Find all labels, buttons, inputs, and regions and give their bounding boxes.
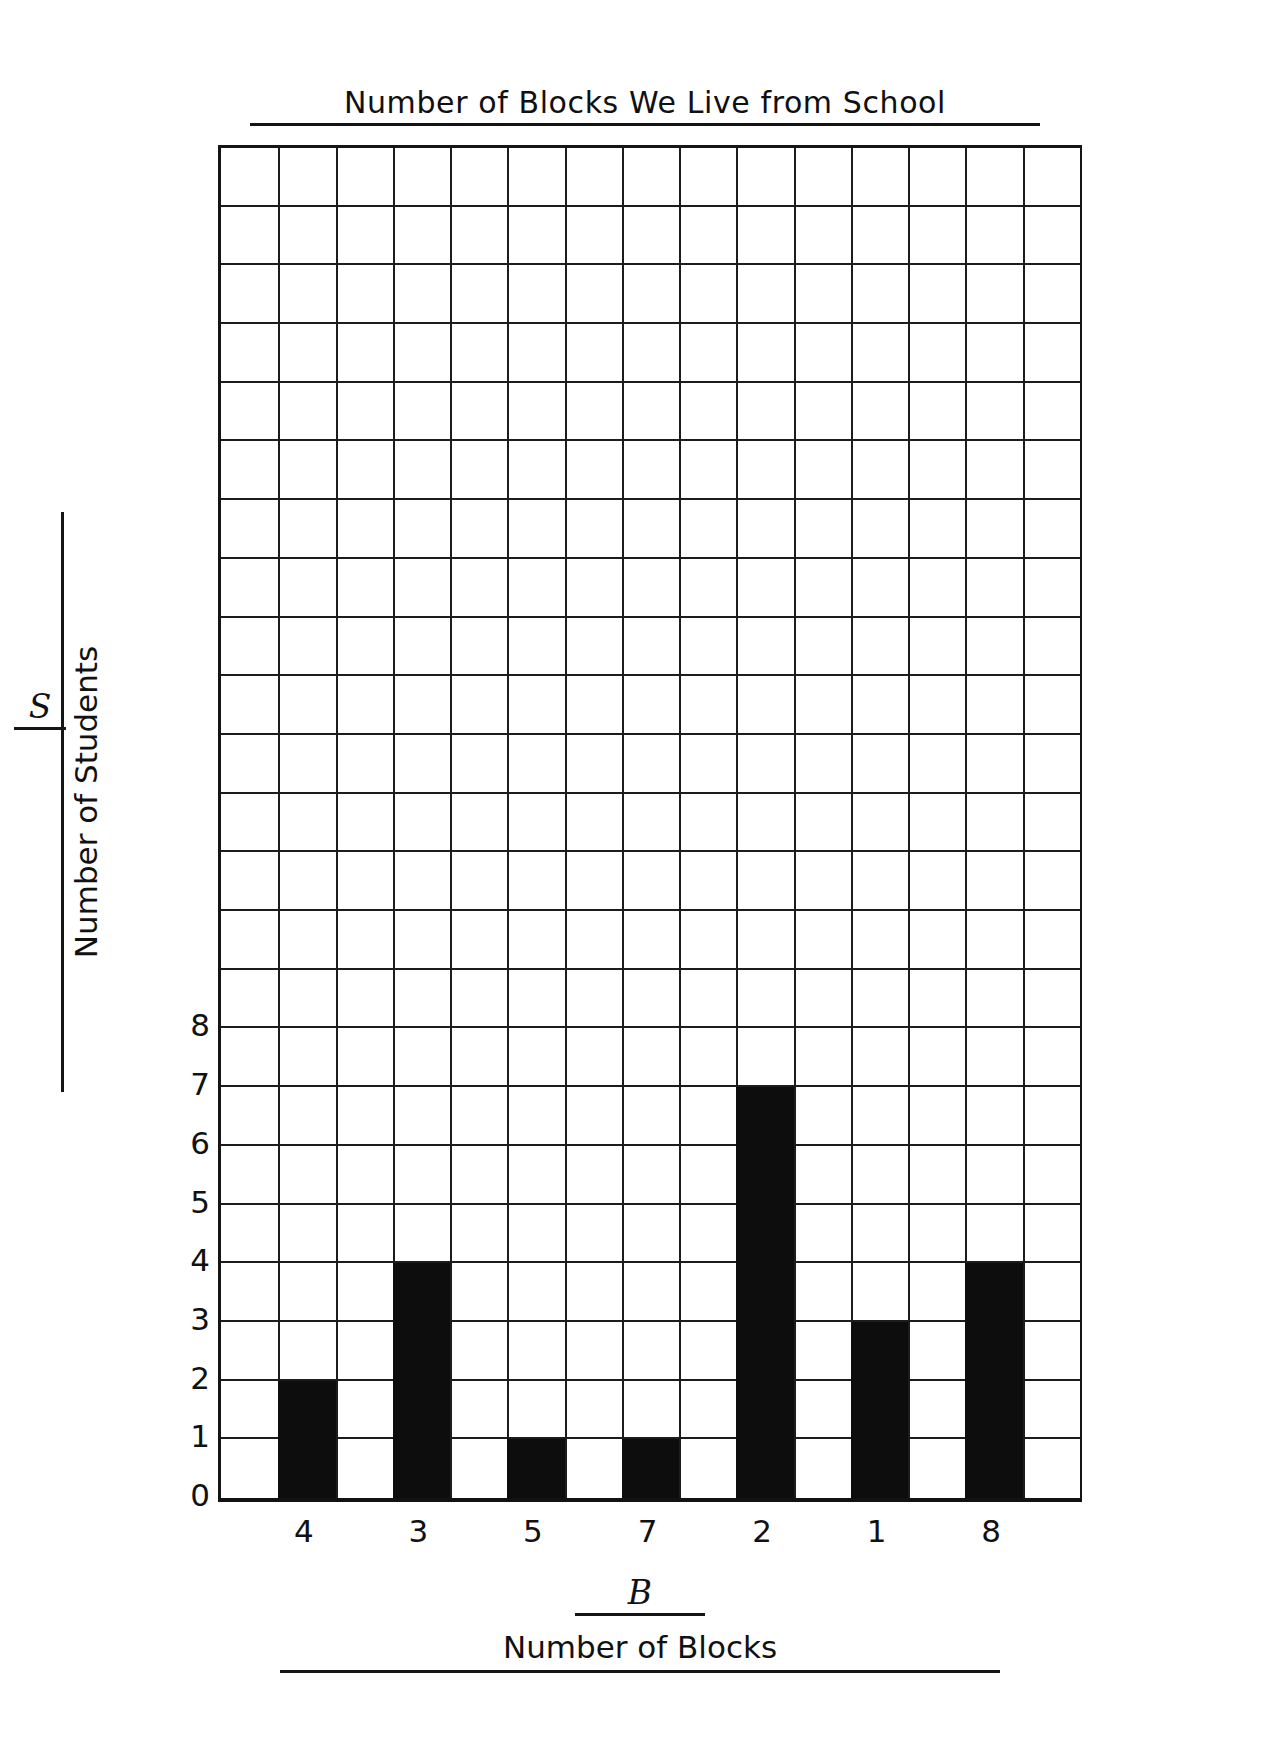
- y-axis-tick-label: 8: [164, 1010, 210, 1041]
- bar: [393, 1263, 450, 1498]
- grid-line-horizontal: [221, 263, 1080, 265]
- x-axis-title: Number of Blocks: [280, 1632, 1000, 1663]
- bar: [851, 1322, 908, 1498]
- x-axis-title-underline: [280, 1670, 1000, 1673]
- x-axis-variable-block: B: [575, 1576, 705, 1616]
- grid-line-vertical: [965, 148, 967, 1498]
- y-axis-tick-label: 3: [164, 1303, 210, 1334]
- grid-line-horizontal: [221, 1203, 1080, 1205]
- grid-line-horizontal: [221, 439, 1080, 441]
- grid-line-vertical: [908, 148, 910, 1498]
- title-underline: [250, 123, 1040, 126]
- y-axis-variable-letter: S: [14, 690, 66, 723]
- grid-line-horizontal: [221, 1320, 1080, 1322]
- bar: [278, 1381, 335, 1498]
- grid-line-vertical: [679, 148, 681, 1498]
- y-axis-tick-label: 7: [164, 1069, 210, 1100]
- y-axis-title: Number of Students: [71, 512, 102, 1092]
- y-axis-title-block: Number of Students: [71, 512, 111, 1092]
- bar: [736, 1087, 793, 1498]
- x-axis-title-block: Number of Blocks: [280, 1632, 1000, 1673]
- grid-line-horizontal: [221, 909, 1080, 911]
- page-title: Number of Blocks We Live from School: [250, 88, 1040, 118]
- grid-line-horizontal: [221, 733, 1080, 735]
- grid-line-horizontal: [221, 1379, 1080, 1381]
- x-axis-variable-letter: B: [575, 1576, 705, 1609]
- y-axis-variable-block: S: [14, 690, 66, 730]
- x-axis-tick-label: 5: [503, 1516, 563, 1547]
- grid-line-horizontal: [221, 1085, 1080, 1087]
- y-axis-tick-label: 0: [164, 1480, 210, 1511]
- bar-series: [221, 148, 1080, 1498]
- grid-line-horizontal: [221, 616, 1080, 618]
- bar: [507, 1439, 564, 1498]
- grid-line-vertical: [450, 148, 452, 1498]
- grid-line-vertical: [336, 148, 338, 1498]
- y-axis-tick-label: 1: [164, 1421, 210, 1452]
- x-axis-tick-label: 8: [961, 1516, 1021, 1547]
- chart-plot-area: [218, 145, 1082, 1502]
- y-axis-tick-label: 5: [164, 1186, 210, 1217]
- grid-line-vertical: [1023, 148, 1025, 1498]
- x-axis-tick-label: 3: [388, 1516, 448, 1547]
- bar: [965, 1263, 1022, 1498]
- grid-line-horizontal: [221, 792, 1080, 794]
- worksheet-page: Number of Blocks We Live from School S N…: [0, 0, 1268, 1749]
- grid-line-horizontal: [221, 1144, 1080, 1146]
- y-axis-title-underline: [61, 512, 64, 1092]
- x-axis-tick-label: 7: [618, 1516, 678, 1547]
- grid-line-horizontal: [221, 205, 1080, 207]
- x-axis-tick-label: 2: [732, 1516, 792, 1547]
- bar: [622, 1439, 679, 1498]
- y-axis-tick-label: 2: [164, 1362, 210, 1393]
- grid-line-horizontal: [221, 968, 1080, 970]
- grid-line-horizontal: [221, 1026, 1080, 1028]
- x-axis-tick-label: 1: [847, 1516, 907, 1547]
- grid-line-vertical: [393, 148, 395, 1498]
- grid-line-horizontal: [221, 674, 1080, 676]
- grid-line-horizontal: [221, 381, 1080, 383]
- grid-line-horizontal: [221, 557, 1080, 559]
- grid-vertical-lines: [221, 148, 1080, 1498]
- grid-line-horizontal: [221, 322, 1080, 324]
- x-axis-tick-label: 4: [274, 1516, 334, 1547]
- x-axis-tick-labels: 4357218: [218, 1516, 1082, 1566]
- grid-horizontal-lines: [221, 148, 1080, 1498]
- grid-line-vertical: [507, 148, 509, 1498]
- grid-line-vertical: [736, 148, 738, 1498]
- grid-line-vertical: [565, 148, 567, 1498]
- y-axis-tick-label: 4: [164, 1245, 210, 1276]
- grid-line-vertical: [622, 148, 624, 1498]
- grid-line-horizontal: [221, 498, 1080, 500]
- grid-line-vertical: [794, 148, 796, 1498]
- x-axis-variable-underline: [575, 1613, 705, 1616]
- chart-title-block: Number of Blocks We Live from School: [250, 88, 1040, 126]
- y-axis-tick-label: 6: [164, 1127, 210, 1158]
- grid-line-horizontal: [221, 1261, 1080, 1263]
- grid-line-vertical: [278, 148, 280, 1498]
- grid-line-horizontal: [221, 850, 1080, 852]
- grid-line-horizontal: [221, 1437, 1080, 1439]
- grid-line-vertical: [851, 148, 853, 1498]
- y-axis-variable-underline: [14, 727, 66, 730]
- y-axis-tick-labels: 876543210: [150, 145, 210, 1502]
